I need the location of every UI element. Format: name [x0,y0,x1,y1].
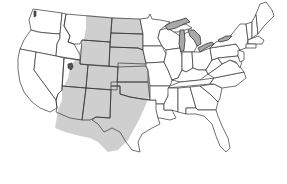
state-maine [256,2,274,34]
state-florida [186,108,230,152]
state-iowa [143,46,166,63]
us-map [0,0,287,184]
lake-michigan [179,30,185,52]
puget-sound [34,11,36,17]
state-connecticut [246,44,256,48]
